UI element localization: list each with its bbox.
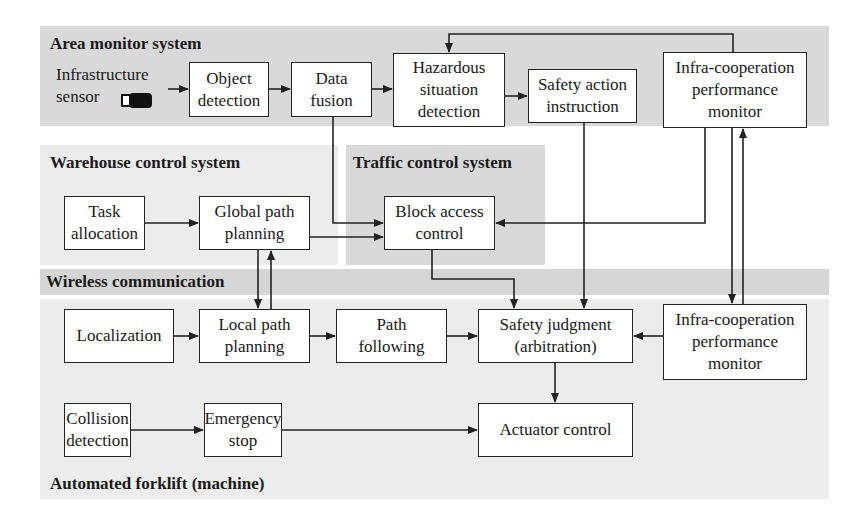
hazardous-situation-detection-box: Hazardous situation detection: [393, 53, 505, 127]
area-monitor-title: Area monitor system: [50, 34, 201, 54]
object-detection-box: Object detection: [189, 62, 269, 117]
infra-cooperation-monitor-top-box: Infra-cooperation performance monitor: [663, 52, 807, 128]
path-following-box: Path following: [336, 309, 447, 363]
emergency-stop-box: Emergency stop: [204, 403, 282, 457]
actuator-control-box: Actuator control: [478, 403, 633, 457]
localization-box: Localization: [64, 309, 174, 363]
safety-judgment-box: Safety judgment (arbitration): [478, 309, 633, 363]
safety-action-instruction-box: Safety action instruction: [528, 69, 637, 123]
wireless-communication-title: Wireless communication: [46, 272, 224, 292]
block-access-control-box: Block access control: [384, 196, 495, 250]
collision-detection-box: Collision detection: [64, 403, 131, 457]
warehouse-control-title: Warehouse control system: [50, 153, 240, 173]
automated-forklift-title: Automated forklift (machine): [50, 474, 264, 494]
infra-cooperation-monitor-bottom-box: Infra-cooperation performance monitor: [663, 304, 807, 380]
local-path-planning-box: Local path planning: [199, 309, 310, 363]
data-fusion-box: Data fusion: [291, 62, 372, 117]
camera-icon: [121, 92, 153, 109]
global-path-planning-box: Global path planning: [199, 196, 310, 250]
traffic-control-title: Traffic control system: [353, 153, 512, 173]
task-allocation-box: Task allocation: [64, 196, 145, 250]
